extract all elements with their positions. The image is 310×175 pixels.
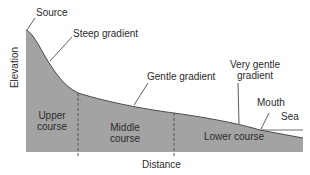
label-mouth: Mouth <box>257 97 285 108</box>
label-lower-course: Lower course <box>204 131 264 142</box>
label-steep-gradient: Steep gradient <box>73 28 138 39</box>
label-middle-line1: Middle <box>100 122 150 133</box>
label-middle-line2: course <box>100 133 150 144</box>
y-axis-label: Elevation <box>9 46 20 90</box>
leader-source <box>27 18 35 30</box>
leader-very-gentle <box>238 83 239 124</box>
leader-steep <box>50 37 72 61</box>
label-very-gentle-gradient: Very gentle gradient <box>226 59 284 81</box>
leader-mouth <box>261 113 269 129</box>
x-axis-label: Distance <box>142 159 181 170</box>
label-gentle-gradient: Gentle gradient <box>147 71 215 82</box>
river-profile-graphic <box>0 0 310 175</box>
leader-gentle <box>134 83 148 105</box>
label-source: Source <box>36 7 68 18</box>
label-upper-line2: course <box>30 121 74 132</box>
label-middle-course: Middle course <box>100 122 150 144</box>
label-upper-line1: Upper <box>30 110 74 121</box>
label-very-gentle-line1: Very gentle <box>226 59 284 70</box>
label-sea: Sea <box>281 111 299 122</box>
label-upper-course: Upper course <box>30 110 74 132</box>
label-very-gentle-line2: gradient <box>226 70 284 81</box>
